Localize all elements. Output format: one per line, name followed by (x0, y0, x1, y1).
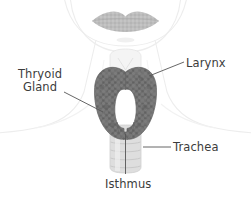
label-trachea: Trachea (173, 141, 219, 154)
collarbone-right-outline (161, 104, 215, 128)
label-thyroid-gland-line1: Thryoid (18, 67, 62, 81)
thyroid-anatomy-illustration: ThryoidGland Larynx Trachea Isthmus (0, 0, 251, 209)
label-thyroid-gland: ThryoidGland (18, 68, 62, 93)
lips (92, 11, 159, 32)
chin-shadow (117, 38, 135, 43)
label-thyroid-gland-line2: Gland (18, 81, 62, 94)
label-larynx: Larynx (186, 57, 226, 70)
neck-left-outline (84, 40, 96, 92)
collarbone-left-outline (36, 104, 90, 128)
label-isthmus: Isthmus (105, 178, 151, 191)
neck-right-outline (155, 40, 167, 92)
leader-line-larynx (149, 62, 184, 76)
